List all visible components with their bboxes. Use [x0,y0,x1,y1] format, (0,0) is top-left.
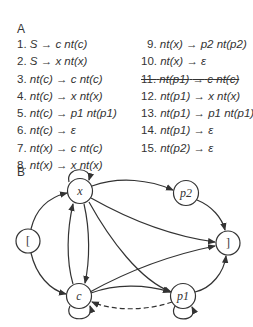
node-x-label: x [76,184,83,198]
edge-start-to-x [31,193,67,229]
edge-c-to-p1 [91,286,170,293]
edge-x-to-p1 [89,202,171,292]
edge-start-to-c [31,253,66,294]
edge-p2-to-end [197,200,225,230]
edge-p1-to-end [195,256,226,292]
node-end-label: ] [226,236,230,250]
edge-x-to-c [84,204,89,283]
edge-x-to-p2 [92,180,173,190]
state-diagram: [ x c p2 ] p1 [0,0,253,327]
edge-p1-to-x [90,246,215,292]
edge-p1-to-c-dashed [92,302,172,309]
edge-c-to-x [68,204,73,284]
node-start-label: [ [26,234,30,248]
node-p2-label: p2 [179,186,192,200]
node-p1-label: p1 [176,289,189,303]
node-c-label: c [76,289,82,303]
